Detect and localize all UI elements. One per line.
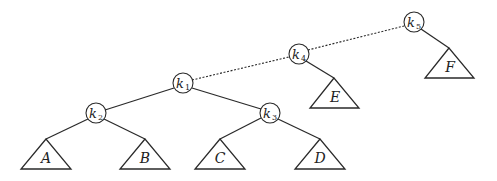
node-k1: k1 bbox=[173, 73, 193, 93]
subtree-label-C: C bbox=[215, 150, 226, 166]
subtree-label-F: F bbox=[444, 59, 456, 75]
node-k2: k2 bbox=[86, 103, 106, 123]
subtree-label-E: E bbox=[329, 89, 340, 105]
tree-diagram: A B C D E F k1 k2 k3 k4 k5 bbox=[0, 0, 497, 181]
edge-k3-D bbox=[278, 119, 320, 139]
edge-k1-k3 bbox=[192, 88, 261, 109]
subtree-label-B: B bbox=[139, 150, 150, 166]
dotted-edge-k1-k4 bbox=[192, 57, 289, 80]
edge-k2-A bbox=[46, 119, 88, 139]
subtree-B: B bbox=[120, 139, 170, 169]
subtree-label-A: A bbox=[39, 150, 51, 166]
edge-k3-C bbox=[220, 118, 261, 139]
dotted-edge-k4-k5 bbox=[308, 26, 404, 50]
subtree-D: D bbox=[295, 139, 345, 169]
edge-k1-k2 bbox=[105, 88, 174, 110]
node-k4: k4 bbox=[289, 44, 309, 64]
subtree-A: A bbox=[21, 139, 71, 169]
subtree-C: C bbox=[195, 139, 245, 169]
edge-k5-F bbox=[421, 29, 449, 48]
node-k5: k5 bbox=[404, 12, 424, 32]
node-k3: k3 bbox=[260, 103, 280, 123]
subtree-label-D: D bbox=[313, 150, 325, 166]
subtree-E: E bbox=[310, 78, 359, 108]
subtree-F: F bbox=[425, 48, 474, 78]
edge-k2-B bbox=[104, 119, 145, 139]
edge-k4-E bbox=[306, 61, 334, 78]
